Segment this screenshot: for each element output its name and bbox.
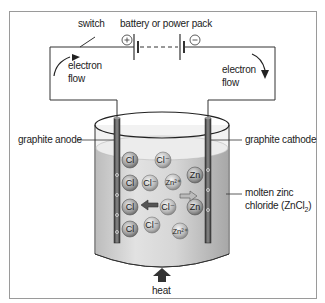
switch-lever bbox=[80, 37, 95, 47]
svg-text:Cl⁻: Cl⁻ bbox=[143, 178, 157, 188]
electrolysis-diagram: Cl Cl⁻ Cl Cl⁻ Zn²⁺ Zn Cl Cl⁻ Zn Cl Cl⁻ Z… bbox=[0, 0, 325, 303]
heat-label: heat bbox=[152, 285, 171, 297]
heat-arrow-icon bbox=[153, 268, 171, 282]
graphite-anode bbox=[114, 118, 120, 243]
switch-label: switch bbox=[78, 18, 105, 30]
svg-text:Cl: Cl bbox=[126, 202, 135, 212]
electron-flow-left-label-2: flow bbox=[68, 73, 85, 85]
electrolyte-label-1: molten zinc bbox=[245, 187, 293, 199]
svg-text:Zn: Zn bbox=[190, 202, 201, 212]
svg-text:Zn: Zn bbox=[190, 170, 201, 180]
electron-flow-left-label-1: electron bbox=[68, 60, 102, 72]
svg-text:Cl: Cl bbox=[126, 178, 135, 188]
electron-flow-right-label-2: flow bbox=[222, 77, 239, 89]
svg-text:Cl⁻: Cl⁻ bbox=[161, 202, 175, 212]
svg-text:Cl⁻: Cl⁻ bbox=[156, 155, 170, 165]
svg-text:Cl: Cl bbox=[126, 224, 135, 234]
cathode-label: graphite cathode bbox=[245, 134, 316, 146]
svg-text:Zn²⁺: Zn²⁺ bbox=[165, 178, 180, 187]
svg-text:Zn²⁺: Zn²⁺ bbox=[172, 227, 187, 236]
graphite-cathode bbox=[205, 118, 211, 243]
svg-text:Cl⁻: Cl⁻ bbox=[145, 220, 159, 230]
anode-label: graphite anode bbox=[18, 134, 82, 146]
battery-label: battery or power pack bbox=[120, 18, 212, 30]
electrolyte-label-2: chloride (ZnCl2) bbox=[245, 200, 311, 216]
svg-text:Cl: Cl bbox=[126, 155, 135, 165]
electron-flow-right-label-1: electron bbox=[222, 64, 256, 76]
